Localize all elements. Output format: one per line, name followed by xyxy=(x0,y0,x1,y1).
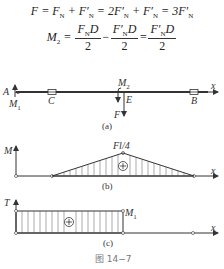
label-m2-sub: 2 xyxy=(126,83,130,91)
label-peak: Fl/4 xyxy=(113,141,130,151)
caption-b: (b) xyxy=(102,182,113,191)
label-c: C xyxy=(48,96,55,106)
diagram-canvas xyxy=(0,0,224,269)
label-e: E xyxy=(126,95,132,105)
caption-c: (c) xyxy=(103,239,113,248)
label-x-c: x xyxy=(211,223,215,233)
label-f: F xyxy=(114,110,120,120)
label-m1-c-sub: 1 xyxy=(133,213,137,221)
figure-caption: 图 14−7 xyxy=(95,255,132,264)
figure-c xyxy=(15,200,219,235)
caption-a: (a) xyxy=(102,122,112,131)
label-x-a: x xyxy=(211,81,215,91)
label-a: A xyxy=(3,87,9,97)
label-b: B xyxy=(191,96,197,106)
label-t-axis: T xyxy=(4,198,10,208)
label-m1: M1 xyxy=(9,99,21,112)
label-m2: M2 xyxy=(118,78,130,91)
label-m1-c: M1 xyxy=(125,208,137,221)
label-x-b: x xyxy=(211,166,215,176)
label-m-axis: M xyxy=(4,146,12,156)
label-m1-sub: 1 xyxy=(17,104,21,112)
